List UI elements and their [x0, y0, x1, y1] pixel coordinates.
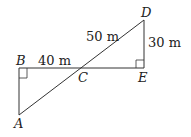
right-angle-marker-E [136, 60, 144, 68]
geometry-diagram: D 50 m 30 m B 40 m C E A [0, 0, 191, 137]
label-BC-length: 40 m [38, 53, 71, 68]
label-C: C [78, 70, 88, 85]
right-angle-marker-B [19, 68, 27, 78]
label-A: A [13, 116, 23, 131]
label-D: D [140, 5, 152, 20]
label-B: B [15, 53, 26, 68]
label-DE-length: 30 m [148, 35, 181, 50]
label-E: E [137, 70, 148, 85]
label-CD-length: 50 m [86, 29, 119, 44]
